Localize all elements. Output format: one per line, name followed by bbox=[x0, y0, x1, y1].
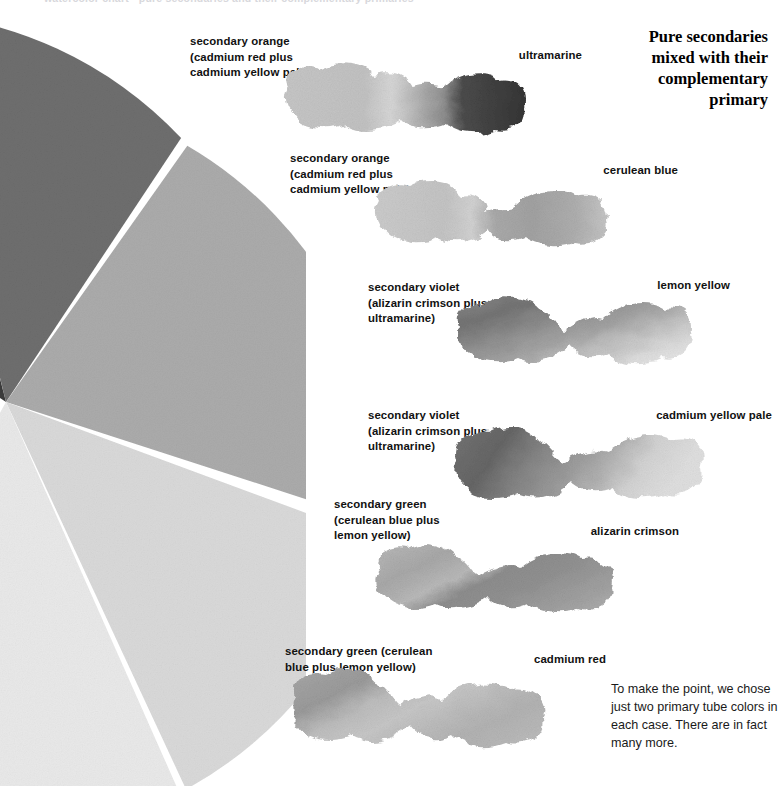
swatch-green-cadmium-red bbox=[284, 664, 556, 752]
footnote-text: To make the point, we chose just two pri… bbox=[611, 681, 781, 753]
swatch-row-green-cadmium-red: secondary green (cerulean blue plus lemo… bbox=[0, 0, 784, 786]
page-root: watercolor chart · pure secondaries and … bbox=[0, 0, 784, 786]
